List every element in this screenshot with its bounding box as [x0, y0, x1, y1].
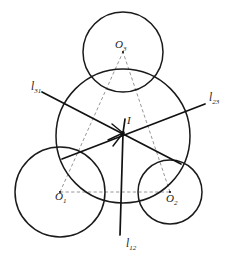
label-radical-center: I [126, 114, 132, 126]
geometry-figure: O3 O1 O2 I l31 l23 l12 [0, 0, 231, 260]
labels-group: O3 O1 O2 I l31 l23 l12 [31, 38, 220, 252]
axis-l31 [42, 92, 181, 164]
center-triangle [60, 52, 170, 192]
triangle-side-o1-o3 [60, 52, 123, 192]
label-o2: O2 [166, 192, 178, 207]
label-l23: l23 [209, 91, 220, 106]
radical-axes-group [42, 92, 205, 235]
axis-l12 [120, 133, 123, 235]
axis-l23 [62, 104, 205, 159]
label-o1: O1 [55, 190, 66, 205]
dot-incenter [121, 131, 125, 135]
center-dots-group [59, 51, 171, 193]
diagram-canvas: O3 O1 O2 I l31 l23 l12 [0, 0, 231, 260]
label-l31: l31 [31, 80, 41, 95]
label-l12: l12 [126, 237, 137, 252]
axis-l12-upper-stub [123, 119, 125, 133]
label-o3: O3 [115, 38, 127, 53]
